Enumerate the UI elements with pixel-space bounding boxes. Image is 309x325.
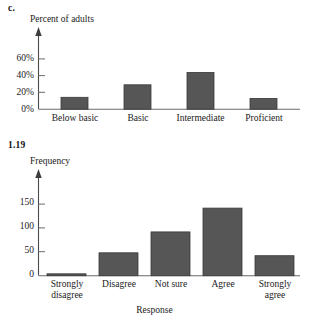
bar-proficient bbox=[250, 98, 277, 109]
x-category-label-below-basic: Below basic bbox=[44, 113, 106, 124]
x-category-label-basic: Basic bbox=[107, 113, 169, 124]
x-category-label-strongly-agree-line1: Strongly bbox=[259, 279, 292, 289]
plot-area-percent-of-adults bbox=[0, 0, 309, 118]
figure-response-frequency: 1.19 Frequency 150 100 50 0 Strongly di bbox=[0, 138, 309, 325]
x-axis-title-response: Response bbox=[0, 305, 309, 315]
bar-below-basic bbox=[61, 97, 88, 109]
y-axis-percent bbox=[35, 27, 41, 109]
x-category-label-strongly-agree: Strongly agree bbox=[244, 279, 306, 301]
x-category-label-strongly-disagree-line1: Strongly bbox=[51, 279, 84, 289]
x-category-label-strongly-disagree-line2: disagree bbox=[51, 290, 83, 300]
bar-series-percent-of-adults bbox=[61, 72, 277, 109]
bar-basic bbox=[124, 85, 151, 109]
bar-intermediate bbox=[187, 72, 214, 109]
bar-strongly-agree bbox=[255, 256, 294, 276]
bar-disagree bbox=[99, 253, 138, 276]
x-category-label-intermediate: Intermediate bbox=[168, 113, 233, 124]
x-category-label-strongly-agree-line2: agree bbox=[265, 290, 286, 300]
plot-area-response-frequency bbox=[0, 138, 309, 283]
x-category-label-proficient: Proficient bbox=[233, 113, 295, 124]
bar-agree bbox=[203, 208, 242, 276]
figure-percent-of-adults: c. Percent of adults 60% 40% 20% 0% Belo… bbox=[0, 0, 309, 140]
bar-not-sure bbox=[151, 232, 190, 276]
bar-series-response-frequency bbox=[47, 208, 294, 276]
y-axis-ticks-frequency bbox=[39, 204, 46, 252]
bar-strongly-disagree bbox=[47, 274, 86, 276]
y-axis-frequency bbox=[35, 169, 41, 276]
y-axis-ticks-percent bbox=[39, 59, 46, 92]
